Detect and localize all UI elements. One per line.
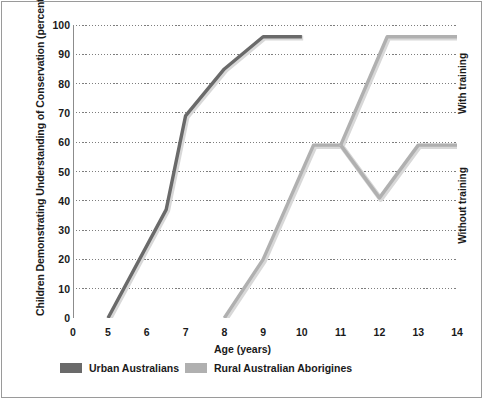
x-tick-label: 7 <box>183 326 189 338</box>
x-tick-label: 12 <box>374 326 386 338</box>
annotation-without-training: Without training <box>457 151 468 261</box>
y-tick-label: 10 <box>42 283 70 295</box>
y-axis-tick-labels: 0102030405060708090100 <box>42 20 70 320</box>
legend-swatch <box>185 363 207 373</box>
y-tick-label: 60 <box>42 136 70 148</box>
y-tick-label: 90 <box>42 48 70 60</box>
y-tick-label: 50 <box>42 166 70 178</box>
y-tick-label: 40 <box>42 195 70 207</box>
series-branch-with-training <box>341 37 457 145</box>
legend-swatch <box>60 363 82 373</box>
y-tick-label: 70 <box>42 107 70 119</box>
chart-figure: Children Demonstrating Understanding of … <box>0 0 485 401</box>
x-tick-label: 9 <box>260 326 266 338</box>
x-axis-title: Age (years) <box>0 343 485 355</box>
y-tick-label: 80 <box>42 78 70 90</box>
series-line-urban-australians <box>108 37 302 318</box>
series-line-urban-australians-shadow <box>109 38 303 318</box>
chart-legend: Urban AustraliansRural Australian Aborig… <box>0 362 485 382</box>
y-tick-label: 0 <box>42 312 70 324</box>
x-tick-label: 6 <box>144 326 150 338</box>
legend-item: Rural Australian Aborigines <box>185 362 352 374</box>
series-line-rural-australian-aborigines <box>224 145 340 318</box>
x-tick-label: 14 <box>451 326 463 338</box>
plot-area <box>73 25 457 318</box>
y-tick-label: 100 <box>42 19 70 31</box>
legend-label: Urban Australians <box>89 362 179 374</box>
x-tick-label: 5 <box>105 326 111 338</box>
x-tick-label: 13 <box>412 326 424 338</box>
x-tick-label: 10 <box>296 326 308 338</box>
y-tick-label: 30 <box>42 224 70 236</box>
legend-item: Urban Australians <box>60 362 179 374</box>
annotation-with-training: With training <box>457 29 468 139</box>
chart-svg <box>73 25 457 318</box>
x-tick-label: 8 <box>221 326 227 338</box>
x-tick-label: 11 <box>335 326 346 338</box>
x-axis-tick-labels: 0567891011121314 <box>0 326 485 342</box>
x-tick-label: 0 <box>70 326 76 338</box>
y-tick-label: 20 <box>42 253 70 265</box>
legend-label: Rural Australian Aborigines <box>214 362 352 374</box>
